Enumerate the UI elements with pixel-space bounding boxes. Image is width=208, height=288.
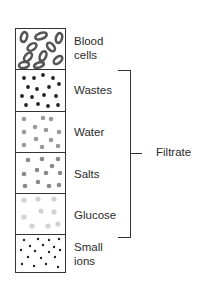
label-wastes: Wastes [74,83,112,97]
label-blood-cells: Blood cells [74,34,103,62]
label-salts: Salts [74,167,100,181]
section-blood-cells [15,28,66,69]
wastes-dots-pattern-icon [16,70,65,111]
glucose-dots-pattern-icon [16,194,65,234]
label-small-ions-line-1: Small [74,240,103,254]
label-small-ions-line-2: ions [74,254,103,268]
label-filtrate: Filtrate [156,146,191,158]
label-blood-cells-line-1: Blood [74,34,103,48]
section-water [15,111,66,152]
water-dots-pattern-icon [16,112,65,152]
salts-dots-pattern-icon [16,153,65,193]
filtrate-bracket [118,70,131,238]
small-ions-dots-pattern-icon [16,235,65,272]
section-small-ions [15,234,66,273]
filtrate-bracket-tick [130,153,142,154]
label-water: Water [74,125,104,139]
blood-cells-pattern-icon [16,29,65,69]
label-blood-cells-line-2: cells [74,48,103,62]
section-salts [15,152,66,193]
filtration-column [15,28,66,271]
label-small-ions: Small ions [74,240,103,268]
label-glucose: Glucose [74,208,116,222]
section-wastes [15,69,66,111]
section-glucose [15,193,66,234]
